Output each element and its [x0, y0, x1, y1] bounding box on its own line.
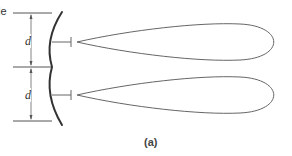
arrowhead-icon [30, 115, 33, 120]
truncated-label: le [0, 6, 7, 17]
radiation-lobe-2 [77, 77, 274, 114]
arrowhead-icon [30, 61, 33, 66]
dimension-label-lower: d [25, 88, 31, 102]
reflector-arc [50, 12, 62, 125]
diagram-graphic [0, 0, 292, 156]
figure-caption: (a) [144, 137, 157, 148]
dimension-label-upper: d [25, 34, 31, 48]
radiation-lobe-1 [77, 24, 274, 61]
arrowhead-icon [30, 14, 33, 19]
arrowhead-icon [30, 68, 33, 73]
